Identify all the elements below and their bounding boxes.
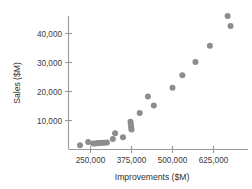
data-point [137, 110, 143, 116]
x-tick-label-250000: 250,000 [76, 156, 106, 165]
y-tick-label-20000: 20,000 [37, 88, 62, 97]
x-tick-label-375000: 375,000 [117, 156, 147, 165]
data-point [110, 136, 116, 142]
data-point [228, 23, 234, 29]
data-point [170, 85, 176, 91]
x-tick-label-500000: 500,000 [158, 156, 188, 165]
data-point [77, 142, 83, 148]
y-tick-label-40000: 40,000 [37, 30, 62, 39]
data-point [104, 140, 110, 146]
data-point [192, 59, 198, 65]
chart-canvas: 40,000 30,000 20,000 10,000 250,000 375,… [0, 0, 252, 189]
y-tick-label-10000: 10,000 [37, 117, 62, 126]
y-axis-title: Sales ($M) [12, 62, 22, 104]
x-tick-label-625000: 625,000 [199, 156, 229, 165]
data-point [225, 13, 231, 19]
data-point [151, 102, 157, 108]
data-point [145, 93, 151, 99]
data-point [129, 126, 135, 132]
data-point [207, 43, 213, 49]
y-tick-label-30000: 30,000 [37, 59, 62, 68]
data-point [120, 134, 126, 140]
x-axis-title: Improvements ($M) [115, 172, 190, 182]
data-point-series [77, 13, 234, 148]
data-point [112, 130, 118, 136]
data-point [179, 72, 185, 78]
scatter-chart-figure: 40,000 30,000 20,000 10,000 250,000 375,… [0, 0, 252, 189]
